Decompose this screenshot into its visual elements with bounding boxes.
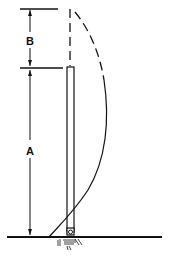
current-curve-solid (49, 80, 107, 237)
dimension-a: A (26, 70, 34, 235)
label-b: B (26, 35, 34, 47)
antenna-diagram: B A (0, 0, 174, 258)
current-curve-dashed (75, 12, 104, 80)
arrow-up-icon (28, 10, 32, 16)
arrow-down-icon (28, 60, 32, 66)
label-a: A (26, 145, 34, 157)
arrow-down-icon (28, 229, 32, 235)
ground-hatch-icon (58, 239, 82, 250)
dimension-b: B (26, 10, 34, 66)
arrow-up-icon (28, 70, 32, 76)
antenna-mast (67, 67, 74, 232)
